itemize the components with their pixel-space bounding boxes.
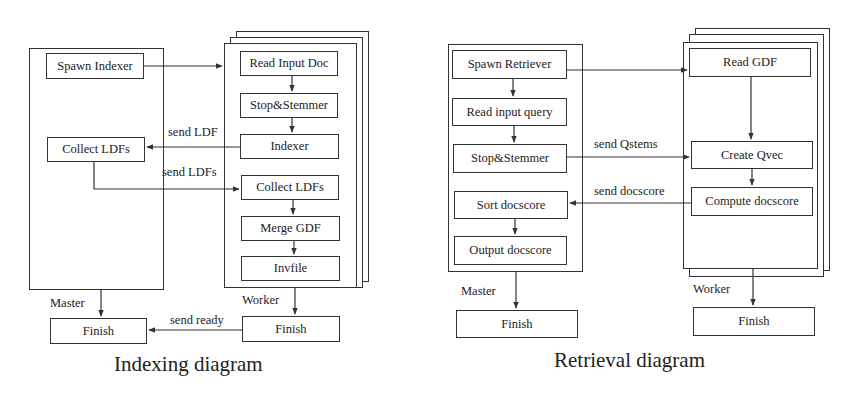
merge-gdf-node: Merge GDF	[241, 216, 340, 241]
send-docscore-label: send docscore	[594, 184, 664, 199]
indexing-master-label: Master	[50, 296, 85, 311]
indexer-node: Indexer	[240, 134, 339, 159]
collect-ldfs-master-node: Collect LDFs	[47, 137, 145, 162]
spawn-retriever-node: Spawn Retriever	[452, 50, 567, 79]
send-ldf-label: send LDF	[168, 125, 218, 140]
indexing-worker-label: Worker	[242, 293, 279, 308]
finish-retrieval-worker-node: Finish	[693, 307, 815, 336]
output-docscore-node: Output docscore	[454, 236, 567, 265]
send-ldfs-label: send LDFs	[162, 165, 217, 180]
read-input-query-node: Read input query	[452, 98, 567, 126]
read-input-doc-node: Read Input Doc	[240, 51, 338, 76]
stop-stemmer-master-node: Stop&Stemmer	[453, 144, 567, 173]
finish-worker-node: Finish	[242, 316, 340, 342]
finish-retrieval-master-node: Finish	[456, 310, 578, 338]
send-qstems-label: send Qstems	[594, 137, 658, 152]
retrieval-worker-label: Worker	[693, 282, 730, 297]
finish-master-node: Finish	[50, 318, 147, 344]
send-ready-label: send ready	[170, 313, 224, 328]
retrieval-master-label: Master	[461, 284, 496, 299]
retrieval-diagram-title: Retrieval diagram	[554, 348, 705, 373]
indexing-master-frame	[29, 48, 164, 290]
sort-docscore-node: Sort docscore	[454, 191, 568, 219]
spawn-indexer-node: Spawn Indexer	[46, 53, 144, 79]
compute-docscore-node: Compute docscore	[691, 187, 813, 216]
indexing-diagram-title: Indexing diagram	[114, 352, 263, 377]
stop-stemmer-worker-node: Stop&Stemmer	[240, 93, 338, 118]
invfile-node: Invfile	[241, 256, 340, 281]
create-qvec-node: Create Qvec	[691, 141, 813, 169]
collect-ldfs-worker-node: Collect LDFs	[241, 175, 339, 200]
read-gdf-node: Read GDF	[689, 48, 811, 77]
indexing-worker-frame	[224, 43, 357, 288]
